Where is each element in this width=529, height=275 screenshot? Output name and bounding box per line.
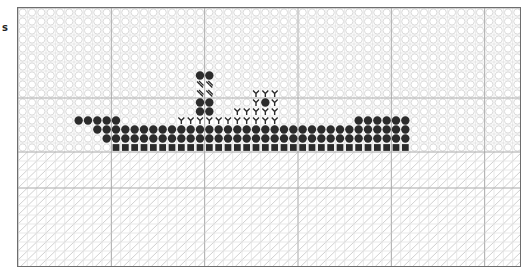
keel-stitch bbox=[402, 144, 409, 151]
hull-stitch bbox=[392, 134, 400, 142]
deck-stitch bbox=[216, 118, 222, 125]
hull-stitch bbox=[168, 134, 176, 142]
deck-stitch bbox=[206, 118, 212, 125]
hull-stitch bbox=[93, 125, 101, 133]
deck-stitch bbox=[178, 118, 184, 125]
hull-stitch bbox=[196, 125, 204, 133]
keel-stitch bbox=[169, 144, 176, 151]
hull-stitch bbox=[205, 125, 213, 133]
hull-stitch bbox=[140, 125, 148, 133]
hull-stitch bbox=[196, 98, 204, 106]
keel-stitch bbox=[393, 144, 400, 151]
hull-stitch bbox=[196, 107, 204, 115]
hull-stitch bbox=[289, 125, 297, 133]
hull-stitch bbox=[298, 125, 306, 133]
hull-stitch bbox=[261, 98, 269, 106]
hull-stitch bbox=[130, 125, 138, 133]
keel-stitch bbox=[318, 144, 325, 151]
keel-stitch bbox=[383, 144, 390, 151]
keel-stitch bbox=[225, 144, 232, 151]
hull-stitch bbox=[392, 125, 400, 133]
hull-stitch bbox=[270, 134, 278, 142]
hull-stitch bbox=[392, 116, 400, 124]
hull-stitch bbox=[261, 125, 269, 133]
deck-stitch bbox=[253, 91, 259, 98]
keel-stitch bbox=[150, 144, 157, 151]
hull-stitch bbox=[345, 134, 353, 142]
hull-stitch bbox=[214, 134, 222, 142]
hull-stitch bbox=[270, 125, 278, 133]
deck-stitch bbox=[197, 118, 203, 125]
deck-stitch bbox=[188, 118, 194, 125]
deck-stitch bbox=[262, 118, 268, 125]
hull-stitch bbox=[205, 98, 213, 106]
cross-stitch-chart bbox=[17, 7, 521, 267]
hull-stitch bbox=[224, 134, 232, 142]
hull-stitch bbox=[102, 134, 110, 142]
hull-stitch bbox=[326, 134, 334, 142]
keel-stitch bbox=[159, 144, 166, 151]
deck-stitch bbox=[253, 109, 259, 116]
hull-stitch bbox=[205, 134, 213, 142]
hull-stitch bbox=[177, 125, 185, 133]
hull-stitch bbox=[196, 71, 204, 79]
hull-stitch bbox=[214, 125, 222, 133]
keel-stitch bbox=[206, 144, 213, 151]
hull-stitch bbox=[308, 125, 316, 133]
keel-stitch bbox=[215, 144, 222, 151]
deck-stitch bbox=[272, 118, 278, 125]
hull-stitch bbox=[261, 134, 269, 142]
hull-stitch bbox=[84, 116, 92, 124]
keel-stitch bbox=[374, 144, 381, 151]
keel-stitch bbox=[113, 144, 120, 151]
deck-stitch bbox=[272, 109, 278, 116]
deck-stitch bbox=[234, 109, 240, 116]
hull-stitch bbox=[252, 134, 260, 142]
hull-stitch bbox=[317, 134, 325, 142]
keel-stitch bbox=[309, 144, 316, 151]
hull-stitch bbox=[308, 134, 316, 142]
deck-stitch bbox=[244, 109, 250, 116]
hull-stitch bbox=[233, 125, 241, 133]
hull-stitch bbox=[354, 125, 362, 133]
keel-stitch bbox=[337, 144, 344, 151]
hull-stitch bbox=[149, 125, 157, 133]
hull-stitch bbox=[112, 134, 120, 142]
hull-stitch bbox=[102, 116, 110, 124]
hull-stitch bbox=[401, 134, 409, 142]
hull-stitch bbox=[196, 134, 204, 142]
deck-stitch bbox=[262, 91, 268, 98]
deck-stitch bbox=[253, 118, 259, 125]
hull-stitch bbox=[112, 125, 120, 133]
deck-stitch bbox=[272, 100, 278, 107]
hull-stitch bbox=[130, 134, 138, 142]
keel-stitch bbox=[281, 144, 288, 151]
hull-stitch bbox=[205, 71, 213, 79]
hull-stitch bbox=[298, 134, 306, 142]
hull-stitch bbox=[74, 116, 82, 124]
hull-stitch bbox=[364, 116, 372, 124]
hull-stitch bbox=[252, 125, 260, 133]
keel-stitch bbox=[262, 144, 269, 151]
hull-stitch bbox=[382, 116, 390, 124]
keel-stitch bbox=[365, 144, 372, 151]
hull-stitch bbox=[364, 134, 372, 142]
hull-stitch bbox=[102, 125, 110, 133]
hull-stitch bbox=[112, 116, 120, 124]
hull-stitch bbox=[401, 125, 409, 133]
deck-stitch bbox=[253, 100, 259, 107]
keel-stitch bbox=[178, 144, 185, 151]
hull-stitch bbox=[121, 134, 129, 142]
hull-stitch bbox=[140, 134, 148, 142]
keel-stitch bbox=[234, 144, 241, 151]
hull-stitch bbox=[186, 134, 194, 142]
hull-stitch bbox=[158, 134, 166, 142]
hull-stitch bbox=[382, 134, 390, 142]
side-label: s bbox=[2, 22, 8, 33]
hull-stitch bbox=[280, 125, 288, 133]
hull-stitch bbox=[93, 116, 101, 124]
keel-stitch bbox=[253, 144, 260, 151]
hull-stitch bbox=[289, 134, 297, 142]
hull-stitch bbox=[382, 125, 390, 133]
hull-stitch bbox=[233, 134, 241, 142]
